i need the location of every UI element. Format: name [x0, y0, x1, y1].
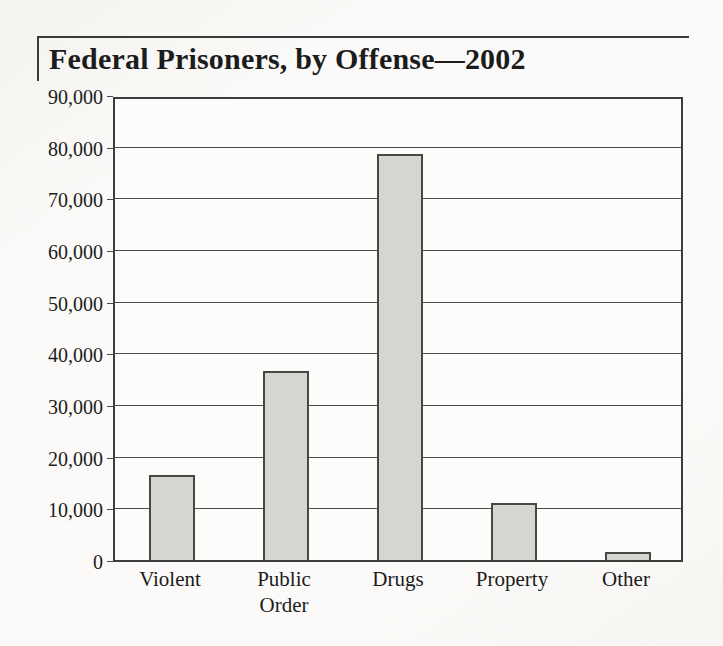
x-axis-label-line: Other [569, 566, 683, 592]
x-axis-label-line: Drugs [341, 566, 455, 592]
title-top-rule [37, 36, 689, 38]
y-tick-20000 [107, 458, 113, 459]
x-axis-label-line: Order [227, 592, 341, 618]
y-tick-10000 [107, 509, 113, 510]
x-axis-label-line: Public [227, 566, 341, 592]
y-axis-label-10000: 10,000 [0, 500, 103, 520]
y-axis-label-20000: 20,000 [0, 449, 103, 469]
y-axis-label-30000: 30,000 [0, 397, 103, 417]
plot-area [113, 97, 683, 562]
chart-title: Federal Prisoners, by Offense—2002 [49, 42, 526, 76]
y-tick-80000 [107, 148, 113, 149]
x-axis-label-line: Violent [113, 566, 227, 592]
y-tick-70000 [107, 199, 113, 200]
y-tick-0 [107, 561, 113, 562]
x-axis-label-property: Property [455, 566, 569, 592]
x-axis-label-drugs: Drugs [341, 566, 455, 592]
bar-violent [149, 475, 195, 560]
x-axis-label-public-order: PublicOrder [227, 566, 341, 618]
y-tick-50000 [107, 303, 113, 304]
x-axis-label-violent: Violent [113, 566, 227, 592]
bar-property [491, 503, 537, 560]
y-tick-30000 [107, 406, 113, 407]
bar-drugs [377, 154, 423, 560]
x-axis-label-line: Property [455, 566, 569, 592]
y-axis-label-90000: 90,000 [0, 87, 103, 107]
gridline-80000 [115, 147, 681, 148]
y-axis-label-80000: 80,000 [0, 139, 103, 159]
bar-public-order [263, 371, 309, 560]
y-axis-label-50000: 50,000 [0, 294, 103, 314]
title-left-bracket [37, 36, 39, 81]
scanned-page: { "header": { "title": "Federal Prisoner… [0, 0, 723, 646]
y-axis-label-60000: 60,000 [0, 242, 103, 262]
y-tick-40000 [107, 354, 113, 355]
y-axis-label-40000: 40,000 [0, 345, 103, 365]
y-tick-90000 [107, 96, 113, 97]
y-axis-label-0: 0 [0, 552, 103, 572]
y-axis-label-70000: 70,000 [0, 190, 103, 210]
bar-other [605, 552, 651, 560]
y-tick-60000 [107, 251, 113, 252]
x-axis-label-other: Other [569, 566, 683, 592]
